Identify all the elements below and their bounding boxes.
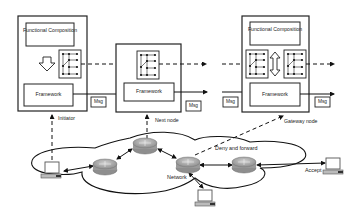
gateway-msg-in-label: Msg bbox=[223, 100, 238, 105]
next-node bbox=[116, 44, 201, 112]
initiator-framework-label: Framework bbox=[24, 92, 73, 97]
next-node-framework-label: Framework bbox=[124, 89, 174, 94]
next-node-label: Next node bbox=[155, 118, 179, 123]
gateway-msg-out-label: Msg bbox=[315, 100, 330, 105]
switch-matrix-icon bbox=[137, 51, 159, 79]
switch-matrix-icon bbox=[284, 50, 306, 78]
accept-label: Accept bbox=[305, 168, 321, 173]
switch-matrix-icon bbox=[246, 50, 268, 78]
link-router1-router2 bbox=[117, 149, 132, 159]
router-icon bbox=[133, 138, 157, 154]
computer-icon-bottom bbox=[195, 190, 215, 206]
router-icon bbox=[232, 157, 256, 173]
deny-and-forward-label: Deny and forward bbox=[215, 146, 258, 151]
gateway-node-label: Gateway node bbox=[284, 119, 317, 124]
computer-icon-initiator bbox=[41, 162, 61, 178]
switch-matrix-icon bbox=[59, 50, 81, 78]
link-router2-router3 bbox=[158, 149, 176, 158]
computer-icon-accept bbox=[323, 158, 343, 174]
next-node-msg-label: Msg bbox=[186, 104, 201, 109]
link-initiator-router1 bbox=[64, 166, 93, 171]
architecture-diagram: Functional Composition Framework Msg Ini… bbox=[0, 0, 363, 224]
gateway-framework-label: Framework bbox=[250, 92, 300, 97]
initiator-functional-composition-label: Functional Composition bbox=[22, 27, 78, 34]
network-cloud bbox=[32, 132, 306, 193]
router-icon bbox=[93, 159, 117, 175]
gateway-functional-composition-label: Functional Composition bbox=[247, 26, 303, 33]
initiator-msg-label: Msg bbox=[91, 100, 106, 105]
diagram-canvas bbox=[0, 0, 363, 224]
router-icon bbox=[176, 157, 200, 173]
initiator-label: Initiator bbox=[58, 116, 75, 121]
network-label: Network bbox=[167, 175, 187, 180]
